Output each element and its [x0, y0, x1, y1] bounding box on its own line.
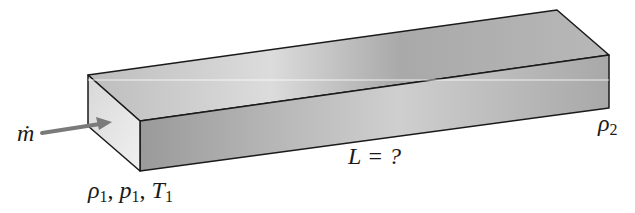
- inlet-state-label: ρ1, p1, T1: [87, 177, 173, 205]
- exit-density-label: ρ2: [597, 110, 618, 138]
- duct-diagram: ṁ ρ1, p1, T1 ρ2 L = ?: [0, 0, 635, 213]
- mass-flow-label: ṁ: [17, 120, 34, 146]
- length-label: L = ?: [347, 143, 401, 169]
- svg-text:ρ1, p1, T1: ρ1, p1, T1: [87, 177, 173, 205]
